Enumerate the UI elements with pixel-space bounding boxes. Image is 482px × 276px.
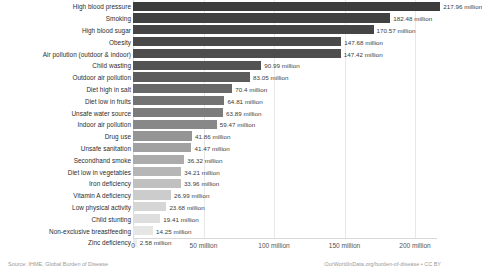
bar-value-label: 147.42 million: [344, 50, 383, 57]
bar[interactable]: [133, 108, 223, 117]
bar-row[interactable]: Diet high in salt70.4 million: [0, 83, 447, 95]
bar-row[interactable]: Non-exclusive breastfeeding14.25 million: [0, 225, 447, 237]
bar-category-label: Child stunting: [92, 215, 131, 222]
bar[interactable]: [133, 37, 341, 46]
bar-value-label: 83.05 million: [253, 74, 288, 81]
bar[interactable]: [133, 25, 374, 34]
bar[interactable]: [133, 179, 181, 188]
bar-row[interactable]: Drug use41.86 million: [0, 130, 447, 142]
bar-value-label: 34.21 million: [184, 168, 219, 175]
bar-value-label: 26.99 million: [174, 192, 209, 199]
bar-row[interactable]: Diet low in vegetables34.21 million: [0, 166, 447, 178]
x-tick-label: 200 million: [399, 242, 431, 250]
bar-value-label: 182.48 million: [393, 15, 432, 22]
bar-value-label: 70.4 million: [235, 85, 267, 92]
bar-category-label: Indoor air pollution: [77, 121, 131, 128]
bar-category-label: Child wasting: [92, 62, 131, 69]
bar-row[interactable]: Obesity147.68 million: [0, 36, 447, 48]
x-tick-label: 50 million: [190, 242, 218, 250]
bar-category-label: High blood pressure: [73, 3, 131, 10]
bar[interactable]: [133, 120, 217, 129]
bar[interactable]: [133, 190, 171, 199]
bar-value-label: 90.99 million: [264, 62, 299, 69]
bar-category-label: Secondhand smoke: [74, 156, 131, 163]
credit-note[interactable]: OurWorldInData.org/burden-of-disease • C…: [324, 261, 441, 268]
bar-category-label: Diet low in vegetables: [68, 168, 131, 175]
bar[interactable]: [133, 202, 166, 211]
bar-category-label: Unsafe sanitation: [81, 144, 131, 151]
bar-value-label: 41.47 million: [194, 144, 229, 151]
bar[interactable]: [133, 131, 192, 140]
bar-row[interactable]: High blood sugar170.57 million: [0, 24, 447, 36]
bar-category-label: Obesity: [109, 38, 131, 45]
bar-category-label: Outdoor air pollution: [72, 74, 131, 81]
bar-value-label: 147.68 million: [344, 38, 383, 45]
bar[interactable]: [133, 214, 160, 223]
bar-row[interactable]: Iron deficiency33.96 million: [0, 178, 447, 190]
bar-category-label: Air pollution (outdoor & indoor): [43, 50, 131, 57]
bar-value-label: 63.89 million: [226, 109, 261, 116]
bar-category-label: Low physical activity: [72, 203, 131, 210]
bar[interactable]: [133, 155, 184, 164]
x-axis: 050 million100 million150 million200 mil…: [0, 238, 447, 256]
bar-row[interactable]: Low physical activity23.68 million: [0, 201, 447, 213]
bar[interactable]: [133, 72, 250, 81]
bar-row[interactable]: Child stunting19.41 million: [0, 213, 447, 225]
bar-row[interactable]: Child wasting90.99 million: [0, 60, 447, 72]
x-tick-label: 150 million: [329, 242, 361, 250]
bar-value-label: 19.41 million: [163, 215, 198, 222]
bar-row[interactable]: Secondhand smoke36.32 million: [0, 154, 447, 166]
bar-row[interactable]: Vitamin A deficiency26.99 million: [0, 189, 447, 201]
bar[interactable]: [133, 143, 191, 152]
bar-row[interactable]: Unsafe sanitation41.47 million: [0, 142, 447, 154]
x-tick-label: 100 million: [258, 242, 290, 250]
bar[interactable]: [133, 2, 440, 11]
bar-category-label: Non-exclusive breastfeeding: [49, 227, 131, 234]
bar-row[interactable]: Diet low in fruits64.81 million: [0, 95, 447, 107]
bar-category-label: Smoking: [106, 15, 131, 22]
bar-category-label: Unsafe water source: [71, 109, 131, 116]
bar-category-label: Iron deficiency: [89, 180, 131, 187]
bar[interactable]: [133, 13, 390, 22]
bar-value-label: 41.86 million: [195, 133, 230, 140]
bar-category-label: Vitamin A deficiency: [73, 192, 131, 199]
bar-row[interactable]: Outdoor air pollution83.05 million: [0, 71, 447, 83]
axis-line: [133, 238, 437, 239]
bar[interactable]: [133, 61, 261, 70]
bar[interactable]: [133, 96, 224, 105]
bar-category-label: Diet low in fruits: [85, 97, 131, 104]
bar-row[interactable]: Smoking182.48 million: [0, 12, 447, 24]
bar-category-label: High blood sugar: [82, 26, 131, 33]
bar-value-label: 217.96 million: [443, 3, 482, 10]
bar-value-label: 14.25 million: [156, 227, 191, 234]
chart-footer: Source: IHME, Global Burden of Disease O…: [0, 261, 447, 276]
plot-area: High blood pressure217.96 millionSmoking…: [0, 0, 447, 238]
bar-value-label: 33.96 million: [184, 180, 219, 187]
bar-row[interactable]: Air pollution (outdoor & indoor)147.42 m…: [0, 48, 447, 60]
bar[interactable]: [133, 84, 232, 93]
bar-row[interactable]: Indoor air pollution59.47 million: [0, 119, 447, 131]
bar-value-label: 59.47 million: [220, 121, 255, 128]
bar-row[interactable]: High blood pressure217.96 million: [0, 1, 447, 13]
source-note: Source: IHME, Global Burden of Disease: [8, 261, 108, 268]
bar-category-label: Diet high in salt: [86, 85, 131, 92]
bar[interactable]: [133, 49, 341, 58]
bar-row[interactable]: Unsafe water source63.89 million: [0, 107, 447, 119]
bar-category-label: Drug use: [105, 133, 131, 140]
bar-value-label: 23.68 million: [169, 203, 204, 210]
bar-value-label: 64.81 million: [227, 97, 262, 104]
bar[interactable]: [133, 226, 153, 235]
bar[interactable]: [133, 167, 181, 176]
x-tick-label: 0: [131, 242, 135, 250]
bar-value-label: 36.32 million: [187, 156, 222, 163]
bar-value-label: 170.57 million: [377, 26, 416, 33]
